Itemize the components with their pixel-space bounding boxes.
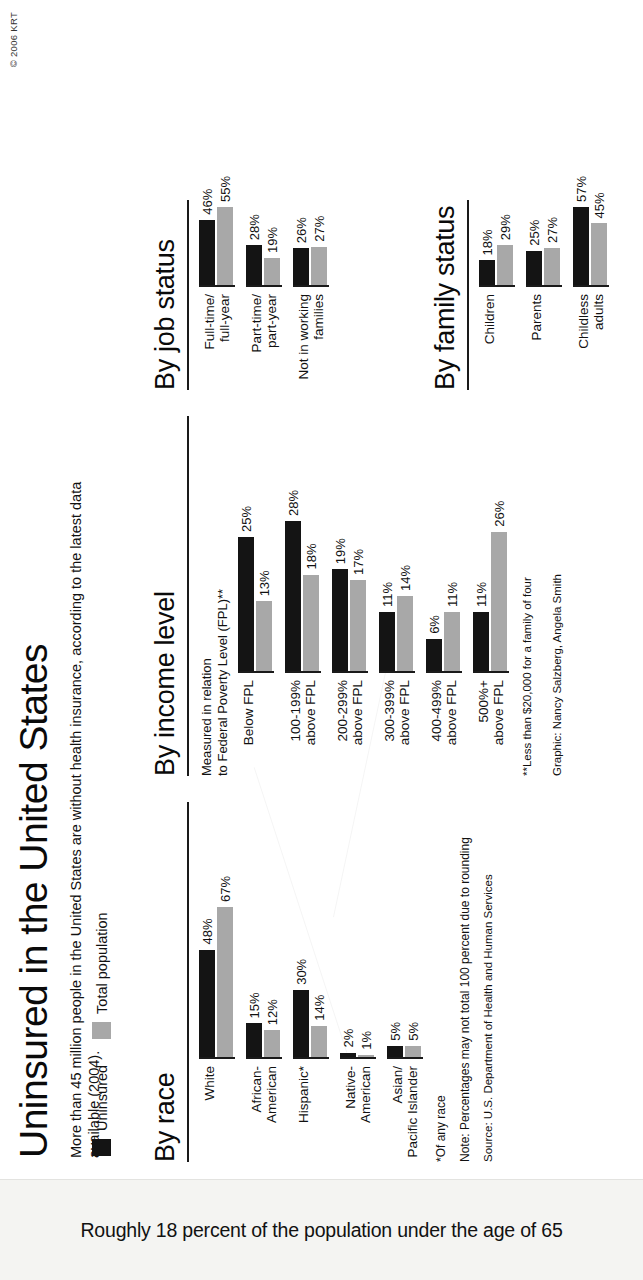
bar-category-label: 400-499% above FPL <box>426 673 459 776</box>
bar-line: 14% <box>397 416 413 671</box>
bar-group: 15%12% <box>246 802 282 1059</box>
bar-line: 26% <box>491 416 507 671</box>
bar-value-label: 27% <box>312 216 327 242</box>
bar-value-label: 12% <box>265 999 280 1025</box>
bar-uninsured <box>199 220 215 285</box>
bar-value-label: 5% <box>388 1022 403 1041</box>
bar-category-label: 100-199% above FPL <box>285 673 318 776</box>
bar-value-label: 46% <box>200 189 215 215</box>
bar-uninsured <box>246 1023 262 1057</box>
chart-rows-by-income-level: Below FPL25%13%100-199% above FPL28%18%2… <box>238 416 509 776</box>
bar-uninsured <box>387 1046 403 1057</box>
bar-value-label: 2% <box>341 1029 356 1048</box>
bar-value-label: 26% <box>492 501 507 527</box>
bar-category-label: Parents <box>526 287 544 390</box>
bar-line: 27% <box>311 200 327 285</box>
bar-group: 11%14% <box>379 416 415 673</box>
legend-label-uninsured: Uninsured <box>94 1065 110 1131</box>
bar-group: 18%29% <box>479 200 515 287</box>
bar-uninsured <box>479 260 495 285</box>
bottom-caption-strip: Roughly 18 percent of the population und… <box>0 1179 643 1280</box>
bar-group: 11%26% <box>473 416 509 673</box>
bar-line: 45% <box>591 176 607 285</box>
bar-uninsured <box>379 612 395 671</box>
chart-row: 200-299% above FPL19%17% <box>332 416 368 776</box>
bar-value-label: 30% <box>294 959 309 985</box>
bar-category-label: Part-time/ part-year <box>246 287 279 390</box>
race-source: Source: U.S. Department of Health and Hu… <box>482 802 494 1162</box>
bar-group: 57%45% <box>573 176 609 287</box>
chart-row: White48%67% <box>199 802 235 1162</box>
bar-value-label: 29% <box>498 214 513 240</box>
legend-item-total-population: Total population <box>92 912 111 1039</box>
bar-total-population <box>217 907 233 1057</box>
bar-category-label: 500%+ above FPL <box>473 673 506 776</box>
bar-line: 15% <box>246 802 262 1057</box>
bar-value-label: 17% <box>351 549 366 575</box>
bar-category-label: 300-399% above FPL <box>379 673 412 776</box>
bar-total-population <box>350 580 366 671</box>
panel-title-by-income-level: By income level <box>150 416 181 776</box>
bar-line: 6% <box>426 416 442 671</box>
panel-rule <box>187 802 189 1162</box>
panel-rule <box>467 200 469 390</box>
bar-line: 14% <box>311 802 327 1057</box>
bar-line: 18% <box>479 200 495 285</box>
bar-uninsured <box>426 639 442 671</box>
legend-label-total-population: Total population <box>94 912 110 1014</box>
bar-total-population <box>358 1055 374 1057</box>
panel-rule <box>187 200 189 390</box>
bar-value-label: 26% <box>294 217 309 243</box>
bar-value-label: 18% <box>480 229 495 255</box>
bar-category-label: Below FPL <box>238 673 256 776</box>
chart-row: Below FPL25%13% <box>238 416 274 776</box>
bar-value-label: 15% <box>247 992 262 1018</box>
bar-line: 57% <box>573 176 589 285</box>
panel-by-race: By race White48%67%African- American15%1… <box>150 802 494 1162</box>
bar-uninsured <box>238 537 254 671</box>
bar-line: 19% <box>332 416 348 671</box>
bar-line: 29% <box>497 200 513 285</box>
bar-uninsured <box>332 569 348 671</box>
income-subtitle: Measured in relation to Federal Poverty … <box>199 416 230 776</box>
bar-group: 48%67% <box>199 802 235 1059</box>
chart-row: 100-199% above FPL28%18% <box>285 416 321 776</box>
bar-value-label: 1% <box>359 1031 374 1050</box>
chart-rows-by-family-status: Children18%29%Parents25%27%Childless adu… <box>479 200 609 390</box>
chart-row: African- American15%12% <box>246 802 282 1162</box>
bar-uninsured <box>473 612 489 671</box>
bar-value-label: 55% <box>218 176 233 202</box>
bar-category-label: Children <box>479 287 497 390</box>
bar-group: 5%5% <box>387 802 423 1059</box>
bar-total-population <box>405 1046 421 1057</box>
legend-item-uninsured: Uninsured <box>92 1065 111 1156</box>
bar-value-label: 11% <box>474 582 489 607</box>
bar-line: 27% <box>544 200 560 285</box>
chart-row: Parents25%27% <box>526 200 562 390</box>
bar-value-label: 14% <box>312 995 327 1021</box>
bar-category-label: 200-299% above FPL <box>332 673 365 776</box>
bar-uninsured <box>246 245 262 285</box>
bar-category-label: White <box>199 1059 217 1162</box>
bar-line: 11% <box>444 416 460 671</box>
bar-value-label: 57% <box>574 176 589 202</box>
bar-line: 28% <box>285 416 301 671</box>
bar-category-label: Asian/ Pacific Islander <box>387 1059 420 1162</box>
bar-value-label: 6% <box>427 615 442 634</box>
infographic-page: © 2006 KRT Uninsured in the United State… <box>0 0 643 1280</box>
bar-value-label: 11% <box>445 582 460 607</box>
page-title: Uninsured in the United States <box>14 498 55 1158</box>
panel-title-by-race: By race <box>150 802 181 1162</box>
bar-total-population <box>397 596 413 671</box>
legend-swatch-uninsured <box>92 1139 111 1156</box>
bar-line: 18% <box>303 416 319 671</box>
bar-uninsured <box>573 207 589 285</box>
bar-category-label: Hispanic* <box>293 1059 311 1162</box>
chart-row: Part-time/ part-year28%19% <box>246 200 282 390</box>
bar-line: 11% <box>473 416 489 671</box>
panel-by-family-status: By family status Children18%29%Parents25… <box>430 200 620 390</box>
chart-rows-by-job-status: Full-time/ full-year46%55%Part-time/ par… <box>199 200 329 390</box>
bar-uninsured <box>199 950 215 1057</box>
bar-total-population <box>497 245 513 285</box>
chart-row: 300-399% above FPL11%14% <box>379 416 415 776</box>
